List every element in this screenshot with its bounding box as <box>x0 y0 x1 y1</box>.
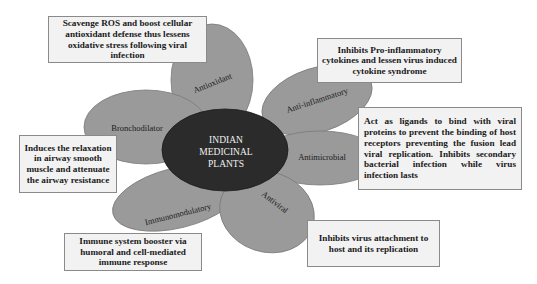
center-label-line-2: MEDICINAL <box>199 147 252 157</box>
petal-label-bronchodilator: Bronchodilator <box>111 123 163 133</box>
medicinal-plants-diagram: INDIAN MEDICINAL PLANTS Antioxidant Anti… <box>0 0 537 284</box>
description-box-bronchodilator: Induces the relaxation in airway smooth … <box>19 135 117 193</box>
center-label-line-3: PLANTS <box>208 159 244 169</box>
description-box-antimicrobial: Act as ligands to bind with viral protei… <box>358 107 522 190</box>
petal-label-antimicrobial: Antimicrobial <box>298 152 346 162</box>
description-box-antiviral: Inhibits virus attachment to host and it… <box>307 220 440 267</box>
description-box-antioxidant: Scavenge ROS and boost cellular antioxid… <box>48 16 207 63</box>
description-box-anti-inflammatory: Inhibits Pro-inflammatory cytokines and … <box>317 38 462 83</box>
description-box-immunomodulatory: Immune system booster via humoral and ce… <box>64 233 202 271</box>
center-label-line-1: INDIAN <box>209 135 243 145</box>
